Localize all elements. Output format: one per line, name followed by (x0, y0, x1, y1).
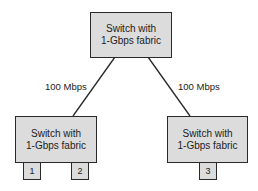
port-2: 2 (71, 162, 89, 180)
switch-top-line1: Switch with (106, 23, 156, 35)
switch-right-line2: 1-Gbps fabric (177, 140, 237, 152)
link-label-left: 100 Mbps (45, 81, 87, 92)
port-3: 3 (199, 162, 217, 180)
switch-left-line2: 1-Gbps fabric (26, 140, 86, 152)
switch-left-line1: Switch with (31, 128, 81, 140)
port-1: 1 (23, 162, 41, 180)
switch-top: Switch with 1-Gbps fabric (90, 12, 172, 58)
switch-left: Switch with 1-Gbps fabric (15, 116, 97, 163)
switch-right: Switch with 1-Gbps fabric (167, 116, 248, 163)
link-label-right: 100 Mbps (178, 81, 220, 92)
switch-right-line1: Switch with (182, 128, 232, 140)
switch-top-line2: 1-Gbps fabric (101, 35, 161, 47)
